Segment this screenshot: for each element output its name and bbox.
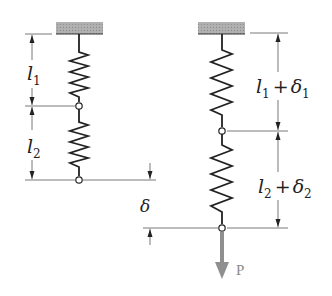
dimension-l2: l2 bbox=[27, 107, 41, 179]
label-l2: l2 bbox=[27, 135, 41, 161]
load-arrow-p: P bbox=[215, 232, 244, 279]
dimension-l2-plus-delta2: l2+δ2 bbox=[258, 132, 312, 227]
right-lower-spring bbox=[211, 134, 232, 224]
label-l1-plus-delta1: l1+δ1 bbox=[256, 75, 310, 101]
left-spring-system: l1 l2 bbox=[25, 22, 156, 183]
left-end-node bbox=[76, 177, 82, 183]
label-load-p: P bbox=[236, 262, 244, 278]
left-fixed-support bbox=[56, 22, 103, 34]
label-delta: δ bbox=[140, 196, 150, 216]
right-junction-node bbox=[219, 128, 225, 134]
left-junction-node bbox=[76, 103, 82, 109]
dimension-l1: l1 bbox=[27, 35, 41, 105]
label-l1: l1 bbox=[27, 62, 41, 88]
right-spring-system: P l1+δ1 l2+δ2 bbox=[143, 22, 312, 279]
right-upper-spring bbox=[211, 34, 232, 127]
label-l2-plus-delta2: l2+δ2 bbox=[258, 175, 312, 201]
right-fixed-support bbox=[198, 22, 245, 34]
left-upper-spring bbox=[70, 34, 88, 102]
left-lower-spring bbox=[70, 109, 88, 176]
dimension-delta: δ bbox=[140, 163, 153, 245]
series-springs-diagram: l1 l2 δ P bbox=[0, 0, 332, 296]
right-end-node bbox=[219, 225, 225, 231]
dimension-l1-plus-delta1: l1+δ1 bbox=[256, 34, 310, 130]
